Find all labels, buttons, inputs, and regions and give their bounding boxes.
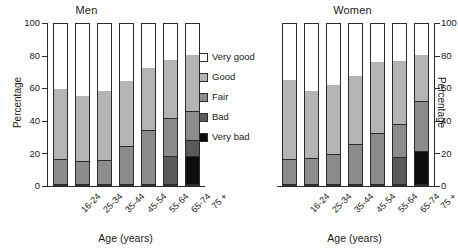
segment-bad <box>186 141 199 157</box>
segment-fair <box>393 125 406 157</box>
legend-label-bad: Bad <box>212 112 229 122</box>
x-tick-women-2: 35-44 <box>353 192 376 215</box>
x-tick-women-3: 45-54 <box>375 192 398 215</box>
bar-women-35-44[interactable] <box>326 23 341 186</box>
segment-good <box>305 91 318 159</box>
y-tick-right-100 <box>435 23 440 24</box>
y-axis-title-left: Percentage <box>12 68 23 138</box>
y-tick-label-left-20: 20 <box>29 149 40 159</box>
legend-item-very-good[interactable]: Very good <box>199 47 273 67</box>
x-tick-labels-men: 16-24 25-34 35-44 45-54 55-64 65-74 75 + <box>53 188 200 234</box>
segment-very-good <box>283 24 296 80</box>
bar-women-65-74[interactable] <box>392 23 407 186</box>
segment-good <box>76 96 89 161</box>
bar-women-45-54[interactable] <box>348 23 363 186</box>
segment-bad <box>393 158 406 185</box>
y-tick-label-right-80: 80 <box>441 51 452 61</box>
segment-fair <box>305 159 318 185</box>
segment-good <box>142 68 155 131</box>
legend-item-fair[interactable]: Fair <box>199 87 273 107</box>
segment-fair <box>371 134 384 185</box>
x-axis-title-women: Age (years) <box>267 232 442 244</box>
segment-very-good <box>76 24 89 96</box>
bar-men-55-64[interactable] <box>141 23 156 186</box>
legend-label-good: Good <box>212 72 235 82</box>
y-tick-label-left-60: 60 <box>29 83 40 93</box>
x-tick-men-4: 55-64 <box>168 192 191 215</box>
segment-very-good <box>98 24 111 91</box>
y-tick-label-left-80: 80 <box>29 51 40 61</box>
legend-item-very-bad[interactable]: Very bad <box>199 127 273 147</box>
segment-good <box>327 85 340 155</box>
segment-very-good <box>371 24 384 62</box>
segment-fair <box>142 131 155 185</box>
bar-men-45-54[interactable] <box>119 23 134 186</box>
legend-swatch-bad-icon <box>199 113 208 122</box>
y-tick-left-80 <box>42 56 47 57</box>
segment-good <box>283 80 296 161</box>
y-tick-left-0 <box>42 186 47 187</box>
segment-good <box>393 61 406 125</box>
bar-women-25-34[interactable] <box>304 23 319 186</box>
x-tick-men-2: 35-44 <box>124 192 147 215</box>
y-tick-label-left-40: 40 <box>29 116 40 126</box>
segment-very-good <box>415 24 428 55</box>
segment-fair <box>349 145 362 185</box>
segment-bad <box>164 157 177 185</box>
y-tick-label-right-0: 0 <box>441 181 446 191</box>
panel-title-men: Men <box>0 4 201 16</box>
segment-fair <box>186 112 199 141</box>
x-tick-labels-women: 16-24 25-34 35-44 45-54 55-64 65-74 75 + <box>282 188 429 234</box>
legend-item-good[interactable]: Good <box>199 67 273 87</box>
y-tick-right-0 <box>435 186 440 187</box>
bar-women-16-24[interactable] <box>282 23 297 186</box>
plot-area-men <box>53 23 200 186</box>
y-tick-left-100 <box>42 23 47 24</box>
y-tick-label-left-100: 100 <box>24 18 40 28</box>
segment-fair <box>76 162 89 185</box>
legend-swatch-fair-icon <box>199 93 208 102</box>
segment-fair <box>164 119 177 157</box>
segment-fair <box>415 102 428 152</box>
x-axis-men-line <box>47 186 205 187</box>
segment-good <box>186 55 199 112</box>
legend-label-fair: Fair <box>212 92 228 102</box>
x-axis-women-line <box>277 186 435 187</box>
x-tick-men-1: 25-34 <box>102 192 125 215</box>
segment-fair <box>120 147 133 185</box>
bar-men-75-plus[interactable] <box>185 23 200 186</box>
segment-good <box>164 60 177 119</box>
segment-good <box>371 62 384 134</box>
x-tick-men-0: 16-24 <box>80 192 103 215</box>
bar-men-65-74[interactable] <box>163 23 178 186</box>
y-tick-label-right-100: 100 <box>441 18 457 28</box>
y-tick-left-20 <box>42 153 47 154</box>
plot-area-women <box>282 23 429 186</box>
segment-fair <box>327 155 340 185</box>
segment-very-good <box>349 24 362 76</box>
y-tick-left-40 <box>42 121 47 122</box>
segment-very-good <box>186 24 199 55</box>
legend-swatch-good-icon <box>199 73 208 82</box>
segment-good <box>98 91 111 161</box>
x-tick-women-4: 55-64 <box>397 192 420 215</box>
x-tick-men-3: 45-54 <box>146 192 169 215</box>
y-tick-label-left-0: 0 <box>35 181 40 191</box>
segment-good <box>54 89 67 160</box>
legend-swatch-very-bad-icon <box>199 133 208 142</box>
segment-good <box>415 55 428 102</box>
segment-fair <box>283 160 296 185</box>
y-tick-right-80 <box>435 56 440 57</box>
segment-fair <box>54 160 67 185</box>
bar-women-55-64[interactable] <box>370 23 385 186</box>
bar-men-16-24[interactable] <box>53 23 68 186</box>
bar-men-35-44[interactable] <box>97 23 112 186</box>
bar-men-25-34[interactable] <box>75 23 90 186</box>
segment-very-good <box>142 24 155 68</box>
bar-women-75-plus[interactable] <box>414 23 429 186</box>
segment-very-good <box>120 24 133 81</box>
segment-very-good <box>164 24 177 60</box>
segment-good <box>120 81 133 147</box>
legend-item-bad[interactable]: Bad <box>199 107 273 127</box>
legend-label-very-good: Very good <box>212 52 255 62</box>
